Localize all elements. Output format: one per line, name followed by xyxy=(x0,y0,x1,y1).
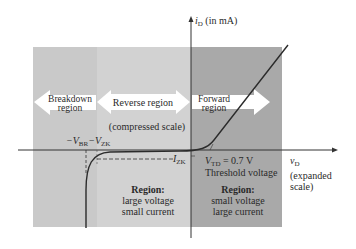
forward-region-note: Region: small voltage large current xyxy=(198,184,278,217)
vbr-label: −VBR−VZK xyxy=(66,135,110,150)
reverse-region-note: Region: large voltage small current xyxy=(108,184,188,217)
y-axis-arrowhead-icon xyxy=(189,16,194,22)
breakdown-region-label: Breakdown region xyxy=(46,95,94,113)
reverse-scale-note: (compressed scale) xyxy=(103,121,191,132)
izk-label: IZK xyxy=(173,153,186,168)
threshold-voltage-label: Threshold voltage xyxy=(205,167,277,178)
x-axis-arrowhead-icon xyxy=(332,148,338,153)
forward-region-label: Forward region xyxy=(193,95,235,113)
x-axis-label: vD (expanded scale) xyxy=(290,155,332,192)
y-axis-label: iD (in mA) xyxy=(195,15,237,30)
reverse-region-label: Reverse region xyxy=(110,97,176,108)
